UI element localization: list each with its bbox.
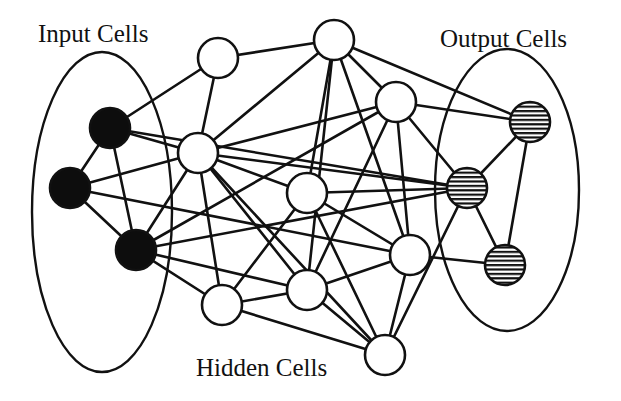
neural-network-diagram: Input Cells Output Cells Hidden Cells	[0, 0, 621, 401]
hidden-cell-H4	[178, 133, 218, 173]
hidden-cell-H9	[365, 335, 405, 375]
output-cells-label: Output Cells	[440, 25, 567, 52]
hidden-cell-H1	[198, 38, 238, 78]
edge-H4-O2	[198, 153, 467, 188]
input-cell-I1	[90, 108, 130, 148]
hidden-cell-H2	[314, 20, 354, 60]
edge-H2-H6	[334, 40, 410, 255]
input-cell-I3	[116, 230, 156, 270]
hidden-cell-H8	[287, 270, 327, 310]
output-cell-O3	[485, 245, 525, 285]
hidden-cell-H7	[202, 285, 242, 325]
hidden-cells-label: Hidden Cells	[196, 354, 327, 381]
hidden-cell-H3	[376, 82, 416, 122]
hidden-cell-H6	[390, 235, 430, 275]
input-cell-I2	[50, 168, 90, 208]
hidden-cell-H5	[287, 173, 327, 213]
edge-I1-O2	[110, 128, 467, 188]
output-cell-O1	[510, 102, 550, 142]
input-cells-label: Input Cells	[38, 20, 148, 47]
output-cell-O2	[447, 168, 487, 208]
